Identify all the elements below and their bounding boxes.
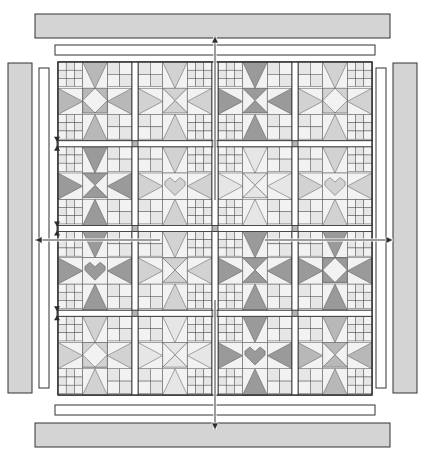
patch [107,329,119,341]
patch [298,74,310,86]
patch [226,216,234,224]
patch [226,240,234,248]
patch [138,329,150,341]
patch [356,123,364,131]
patch [347,377,355,385]
top-outer-border [35,14,390,38]
patch [347,199,355,207]
patch [138,369,150,381]
patch [120,232,132,244]
patch [204,216,212,224]
patch [187,199,195,207]
patch [66,147,74,155]
patch [58,207,66,215]
patch [347,284,355,292]
patch [347,316,355,324]
patch [310,369,322,381]
patch [218,232,226,240]
cornerstone [292,141,298,147]
patch [218,147,226,155]
patch [138,147,150,159]
diagram-canvas [0,0,425,460]
patch [204,369,212,377]
bottom-outer-border [35,423,390,447]
patch [280,159,292,171]
patch [356,155,364,163]
patch [58,248,66,256]
patch [150,381,162,393]
patch [204,324,212,332]
patch [58,316,66,324]
patch [187,377,195,385]
patch [218,155,226,163]
patch [196,377,204,385]
patch [187,333,195,341]
patch [280,147,292,159]
patch [107,232,119,244]
patch [196,62,204,70]
patch [364,292,372,300]
patch [74,123,82,131]
patch [226,70,234,78]
patch [218,115,226,123]
patch [310,147,322,159]
patch [120,316,132,328]
patch [267,199,279,211]
patch [218,240,226,248]
patch [280,244,292,256]
patch [58,369,66,377]
patch [218,78,226,86]
patch [226,324,234,332]
cornerstone [292,226,298,232]
patch [218,292,226,300]
patch [364,385,372,393]
patch [187,163,195,171]
patch [356,115,364,123]
patch [74,78,82,86]
patch [310,244,322,256]
patch [204,316,212,324]
patch [356,70,364,78]
patch [347,147,355,155]
patch [364,248,372,256]
patch [280,369,292,381]
patch [66,78,74,86]
patch [204,155,212,163]
patch [298,115,310,127]
patch [196,385,204,393]
patch [234,300,242,308]
patch [74,70,82,78]
patch [226,147,234,155]
patch [187,300,195,308]
patch [347,333,355,341]
patch [298,296,310,308]
cornerstone [292,310,298,316]
patch [187,155,195,163]
patch [347,163,355,171]
patch [218,163,226,171]
patch [226,369,234,377]
patch [234,163,242,171]
patch [187,248,195,256]
patch [120,244,132,256]
patch [234,216,242,224]
patch [280,284,292,296]
patch [267,381,279,393]
patch [204,147,212,155]
patch [218,377,226,385]
patch [234,70,242,78]
patch [196,147,204,155]
patch [74,385,82,393]
patch [138,284,150,296]
patch [364,333,372,341]
patch [58,333,66,341]
quilt-assembly-diagram [0,0,425,460]
patch [120,284,132,296]
patch [196,115,204,123]
patch [310,159,322,171]
patch [120,74,132,86]
right-inner-border [376,68,386,388]
patch [120,369,132,381]
patch [150,199,162,211]
patch [107,369,119,381]
